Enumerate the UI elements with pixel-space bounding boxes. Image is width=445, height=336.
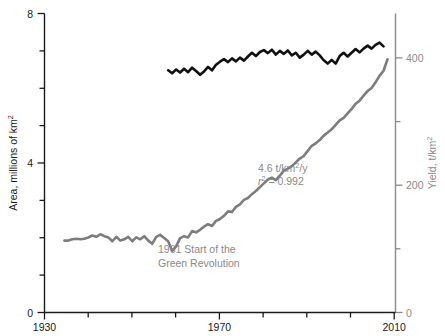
left-axis-title: Area, millions of km2 xyxy=(6,115,19,211)
left-tick-label-8: 8 xyxy=(27,8,33,20)
trend-rate-tail: /y xyxy=(299,162,308,174)
series-line-cereal-area xyxy=(168,43,383,75)
r-squared-tail: = 0.992 xyxy=(266,175,304,187)
chart-figure: 8 4 0 Area, millions of km2 0 200 400 Yi… xyxy=(0,0,445,336)
svg-text:4.6 t/km2/y: 4.6 t/km2/y xyxy=(258,161,308,174)
right-axis-title-sup: 2 xyxy=(425,137,434,141)
x-tick-label-2010: 2010 xyxy=(383,321,407,333)
x-tick-label-1930: 1930 xyxy=(33,321,57,333)
left-tick-label-4: 4 xyxy=(27,157,33,169)
right-axis-title-main: Yield, t/km xyxy=(426,140,438,189)
right-tick-label-0: 0 xyxy=(406,307,412,319)
svg-text:Yield, t/km2: Yield, t/km2 xyxy=(425,137,438,190)
right-tick-label-200: 200 xyxy=(406,179,424,191)
left-tick-label-0: 0 xyxy=(27,307,33,319)
green-revolution-line2: Green Revolution xyxy=(158,257,240,269)
annotation-r-squared: r2 = 0.992 xyxy=(258,174,304,187)
chart-svg: 8 4 0 Area, millions of km2 0 200 400 Yi… xyxy=(0,0,445,336)
right-tick-label-400: 400 xyxy=(406,52,424,64)
svg-text:Area, millions of km2: Area, millions of km2 xyxy=(6,115,19,211)
green-revolution-line1: 1961 Start of the xyxy=(158,243,236,255)
left-axis-title-sup: 2 xyxy=(6,115,15,119)
x-axis: 1930 1970 2010 xyxy=(33,313,406,334)
series-line-cereal-yield xyxy=(64,59,387,250)
right-axis-title: Yield, t/km2 xyxy=(425,137,438,190)
right-axis: 0 200 400 Yield, t/km2 xyxy=(396,14,439,319)
trend-rate-main: 4.6 t/km xyxy=(258,162,296,174)
annotation-green-revolution: 1961 Start of the Green Revolution xyxy=(158,243,240,269)
left-axis-title-main: Area, millions of km xyxy=(7,119,19,211)
annotation-trend-rate: 4.6 t/km2/y xyxy=(258,161,308,174)
svg-text:r2 = 0.992: r2 = 0.992 xyxy=(258,174,304,187)
left-axis: 8 4 0 Area, millions of km2 xyxy=(6,8,45,319)
x-tick-label-1970: 1970 xyxy=(208,321,232,333)
